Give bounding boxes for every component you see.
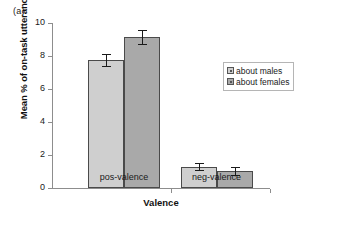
legend-item-about-females: about females — [227, 76, 289, 87]
error-bar-cap — [102, 66, 111, 67]
y-axis-tick: 4 — [48, 122, 52, 123]
x-axis-tick — [270, 189, 271, 193]
error-bar-cap — [231, 167, 240, 168]
y-axis-tick: 8 — [48, 56, 52, 57]
y-axis-tick: 6 — [48, 89, 52, 90]
legend-label-about-females: about females — [236, 77, 289, 87]
legend-item-about-males: about males — [227, 65, 289, 76]
y-axis-tick-label: 4 — [40, 116, 45, 126]
error-bar-cap — [138, 30, 147, 31]
figure-panel-a: (a) Mean % of on-task utterances 0246810… — [0, 0, 338, 231]
bar-pos-valence-about-females — [124, 37, 160, 188]
legend-swatch-icon-females — [227, 78, 234, 85]
plot-area: 0246810 — [52, 23, 270, 189]
x-axis-title: Valence — [52, 197, 270, 208]
y-axis-tick-label: 10 — [35, 17, 45, 27]
error-bar-cap — [195, 163, 204, 164]
error-bar-cap — [138, 44, 147, 45]
y-axis-tick: 2 — [48, 155, 52, 156]
x-axis-tick — [171, 189, 172, 193]
error-bar-cap — [102, 54, 111, 55]
y-axis-tick-label: 8 — [40, 50, 45, 60]
x-axis-line — [52, 188, 270, 189]
legend-label-about-males: about males — [236, 66, 282, 76]
y-axis-tick-label: 6 — [40, 83, 45, 93]
y-axis-tick: 10 — [48, 23, 52, 24]
y-axis-title: Mean % of on-task utterances — [18, 0, 29, 129]
y-axis-tick: 0 — [48, 188, 52, 189]
x-axis-group-label-neg-valence: neg-valence — [157, 172, 277, 182]
y-axis-tick-label: 0 — [40, 182, 45, 192]
y-axis-line — [52, 23, 53, 189]
legend: about males about females — [223, 62, 294, 91]
y-axis-tick-label: 2 — [40, 149, 45, 159]
bar-pos-valence-about-males — [88, 60, 124, 188]
error-bar-cap — [195, 170, 204, 171]
legend-swatch-icon-males — [227, 67, 234, 74]
